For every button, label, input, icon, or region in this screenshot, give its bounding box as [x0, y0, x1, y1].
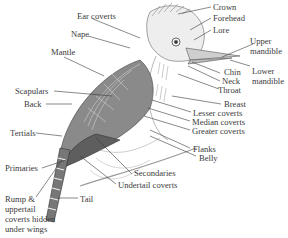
label-ear-coverts: Ear coverts: [77, 12, 116, 21]
label-scapulars: Scapulars: [15, 87, 48, 96]
label-upper-mandible: Upper mandible: [250, 36, 288, 56]
label-back: Back: [24, 100, 42, 109]
label-primaries: Primaries: [5, 164, 38, 173]
label-tail: Tail: [80, 195, 93, 204]
label-tertials: Tertials: [10, 129, 36, 138]
label-belly: Belly: [199, 154, 218, 163]
label-rump-note: Rump & uppertail coverts hidden under wi…: [5, 194, 57, 234]
label-greater-coverts: Greater coverts: [192, 127, 245, 136]
label-throat: Throat: [218, 86, 241, 95]
label-forehead: Forehead: [213, 14, 245, 23]
label-mantle: Mantle: [51, 48, 75, 57]
label-secondaries: Secondaries: [134, 169, 176, 178]
label-lower-mandible: Lower mandible: [252, 66, 288, 86]
bird-anatomy-diagram: Crown Forehead Lore Upper mandible Lower…: [0, 0, 288, 238]
label-crown: Crown: [213, 3, 236, 12]
label-nape: Nape: [71, 30, 89, 39]
label-lore: Lore: [213, 26, 229, 35]
label-undertail-coverts: Undertail coverts: [118, 181, 177, 190]
